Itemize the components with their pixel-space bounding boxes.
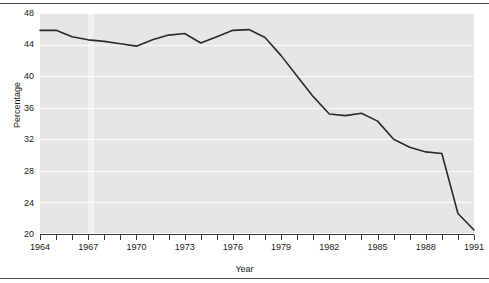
y-tick-label: 40	[8, 72, 34, 81]
x-tick-label: 1988	[406, 242, 446, 253]
x-axis-tick	[297, 235, 298, 240]
x-axis-tick	[136, 235, 137, 240]
x-axis-tick	[361, 235, 362, 240]
x-tick-label: 1991	[454, 242, 489, 253]
x-axis-tick	[72, 235, 73, 240]
x-tick-label: 1964	[20, 242, 60, 253]
x-axis-tick	[201, 235, 202, 240]
figure: Percentage 48 44 40 36 32 28 24 20 19641…	[0, 0, 489, 283]
x-axis-tick	[281, 235, 282, 240]
x-axis-tick	[233, 235, 234, 240]
x-axis-tick	[442, 235, 443, 240]
x-axis-tick	[378, 235, 379, 240]
y-tick-label: 48	[8, 9, 34, 18]
x-axis-tick	[40, 235, 41, 240]
x-axis-tick	[265, 235, 266, 240]
x-axis-tick	[169, 235, 170, 240]
x-axis-tick	[185, 235, 186, 240]
x-axis-tick	[394, 235, 395, 240]
y-tick-label: 24	[8, 199, 34, 208]
y-tick-label: 20	[8, 230, 34, 239]
series-line-percentage	[40, 30, 474, 230]
x-axis-tick	[217, 235, 218, 240]
x-axis-tick	[56, 235, 57, 240]
y-tick-label: 28	[8, 167, 34, 176]
x-axis-tick	[458, 235, 459, 240]
x-tick-label: 1970	[116, 242, 156, 253]
x-axis-tick	[104, 235, 105, 240]
x-tick-label: 1967	[68, 242, 108, 253]
x-axis-title: Year	[0, 264, 489, 274]
x-axis-tick	[88, 235, 89, 240]
x-axis-tick	[426, 235, 427, 240]
x-axis-tick	[329, 235, 330, 240]
x-tick-label: 1979	[261, 242, 301, 253]
y-tick-label: 32	[8, 135, 34, 144]
bottom-divider-rule	[0, 278, 489, 279]
x-axis-tick	[249, 235, 250, 240]
plot-panel	[40, 13, 474, 234]
x-tick-label: 1973	[165, 242, 205, 253]
series-line-chart	[40, 13, 474, 234]
x-axis-tick	[153, 235, 154, 240]
x-axis-tick	[410, 235, 411, 240]
x-axis-tick	[474, 235, 475, 240]
x-tick-label: 1982	[309, 242, 349, 253]
x-axis-tick	[313, 235, 314, 240]
y-tick-label: 44	[8, 40, 34, 49]
x-tick-label: 1976	[213, 242, 253, 253]
x-axis-tick	[120, 235, 121, 240]
x-axis-tick	[345, 235, 346, 240]
top-divider-rule	[0, 3, 489, 4]
x-tick-label: 1985	[358, 242, 398, 253]
y-tick-label: 36	[8, 104, 34, 113]
